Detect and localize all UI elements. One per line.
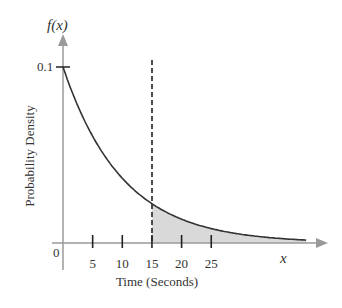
- chart-svg: f(x) 0.1 0 x Time (Seconds) Probability …: [0, 0, 342, 308]
- x-tick-label-15: 15: [145, 256, 158, 271]
- shaded-area: [152, 204, 306, 243]
- density-curve: [63, 67, 306, 240]
- x-axis-title: Time (Seconds): [116, 274, 198, 289]
- origin-label: 0: [53, 245, 60, 260]
- x-tick-label-20: 20: [175, 256, 188, 271]
- y-variable-label: f(x): [47, 17, 68, 34]
- x-tick-labels: 510152025: [89, 256, 217, 271]
- x-tick-label-10: 10: [116, 256, 129, 271]
- x-tick-label-5: 5: [89, 256, 96, 271]
- y-axis-arrow-icon: [58, 34, 68, 46]
- x-tick-label-25: 25: [205, 256, 218, 271]
- y-tick-label: 0.1: [37, 59, 53, 74]
- x-axis-arrow-icon: [316, 238, 328, 248]
- y-axis-title: Probability Density: [22, 105, 37, 207]
- x-variable-label: x: [279, 250, 287, 266]
